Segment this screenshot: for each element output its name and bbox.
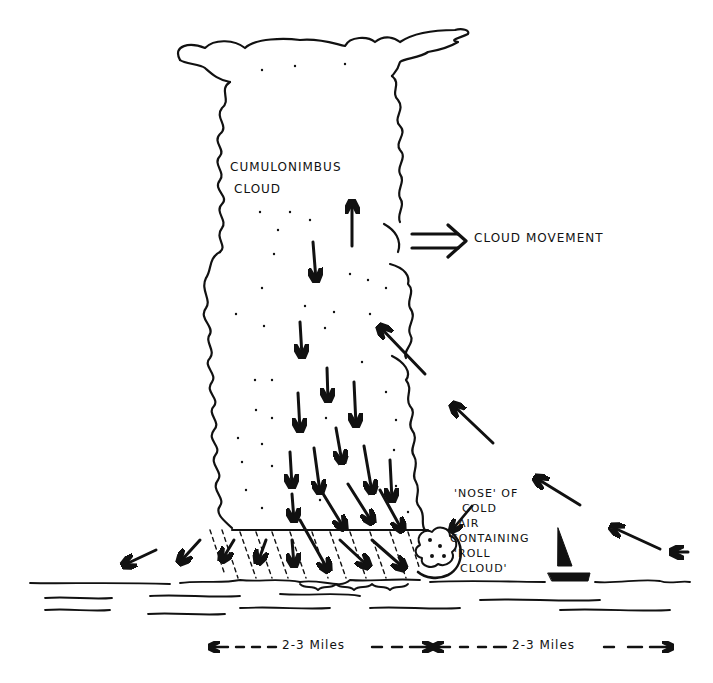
nose-label-line5: 'Roll — [454, 546, 529, 561]
sailboat — [548, 528, 590, 581]
cloud-movement-label: Cloud Movement — [474, 231, 604, 245]
inflow-arrows — [380, 327, 688, 552]
downdraft-arrows — [290, 242, 402, 530]
nose-label-line3: Air — [454, 516, 529, 531]
cloud-texture-dots — [235, 63, 409, 513]
cumulonimbus-diagram — [0, 0, 713, 683]
scale-left-label: 2-3 Miles — [282, 638, 345, 652]
cloud-label-line1: Cumulonimbus — [230, 156, 342, 178]
nose-label-line4: Containing — [450, 531, 529, 546]
cloud-movement-arrow — [412, 225, 466, 257]
nose-of-cold-air-label: 'Nose' of Cold Air Containing 'Roll Clou… — [454, 486, 529, 576]
nose-label-line2: Cold — [454, 501, 529, 516]
cumulonimbus-label: Cumulonimbus Cloud — [230, 156, 342, 200]
nose-label-line1: 'Nose' of — [454, 486, 529, 501]
cloud-label-line2: Cloud — [230, 178, 342, 200]
scale-right-label: 2-3 Miles — [512, 638, 575, 652]
anvil-top — [178, 29, 468, 82]
rain-downdraft-arrows — [222, 520, 404, 570]
water-surface — [30, 579, 690, 614]
outflow-arrows — [124, 540, 200, 565]
nose-label-line6: Cloud' — [454, 561, 529, 576]
